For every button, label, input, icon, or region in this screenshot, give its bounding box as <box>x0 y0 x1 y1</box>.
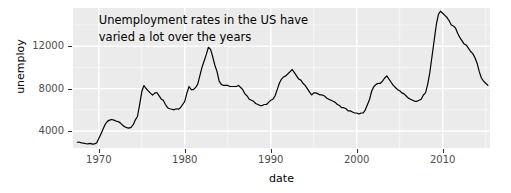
chart-container: Unemployment rates in the US havevaried … <box>0 0 511 193</box>
x-tick-mark-1970 <box>99 149 100 153</box>
x-tick-label-1980: 1980 <box>155 154 215 165</box>
x-tick-label-2010: 2010 <box>413 154 473 165</box>
x-tick-label-1990: 1990 <box>241 154 301 165</box>
x-axis-ticks: 19701980199020002010 <box>0 0 511 193</box>
x-tick-mark-1980 <box>185 149 186 153</box>
x-axis-title: date <box>73 172 490 185</box>
x-tick-mark-1990 <box>271 149 272 153</box>
x-tick-mark-2010 <box>443 149 444 153</box>
x-tick-label-2000: 2000 <box>327 154 387 165</box>
x-tick-mark-2000 <box>357 149 358 153</box>
x-tick-label-1970: 1970 <box>69 154 129 165</box>
